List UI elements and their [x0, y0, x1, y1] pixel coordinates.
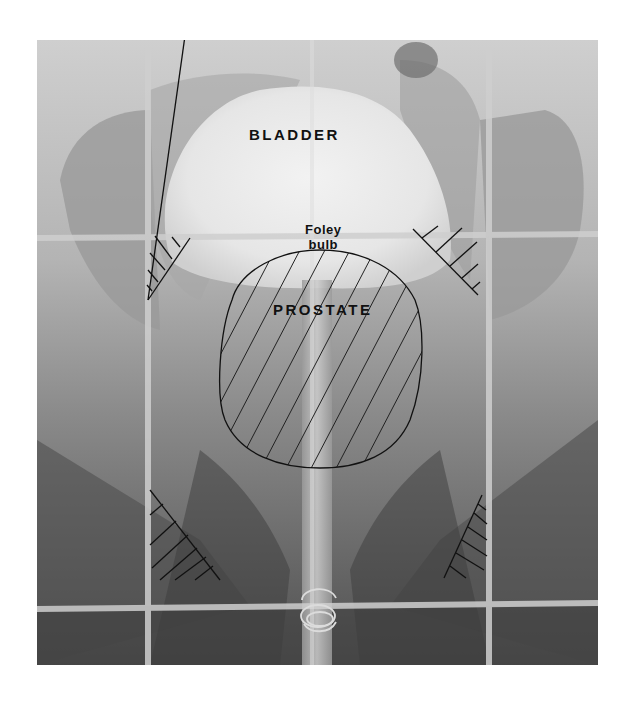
dark-spot: [394, 42, 438, 78]
foley-label-line2: bulb: [305, 237, 341, 252]
foley-label-line1: Foley: [305, 222, 341, 237]
prostate-label: PROSTATE: [273, 301, 372, 318]
foley-bulb-label: Foley bulb: [305, 222, 341, 252]
bladder-label: BLADDER: [249, 126, 340, 143]
